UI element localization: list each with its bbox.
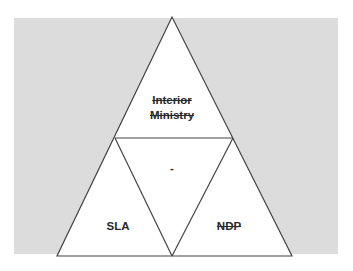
segment-top-label: Interior Ministry bbox=[130, 93, 214, 123]
segment-center-label: - bbox=[162, 161, 182, 176]
segment-top-line2: Ministry bbox=[130, 108, 214, 123]
segment-bottom-right-label: NDP bbox=[209, 219, 249, 234]
segment-bottom-left-label: SLA bbox=[98, 219, 138, 234]
segment-top-line1: Interior bbox=[130, 93, 214, 108]
outer-triangle bbox=[57, 17, 292, 256]
triangle-diagram bbox=[0, 0, 353, 271]
